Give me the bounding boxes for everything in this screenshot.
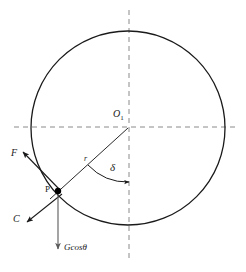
angle-delta-arc [88,165,129,182]
force-c-arrow [27,194,62,222]
label-center-o1: O1 [113,109,124,122]
label-force-f: F [11,148,17,158]
label-weight-theta: θ [83,242,87,252]
label-weight-gcos-theta: Gcosθ [64,243,87,252]
label-radius-r: r [84,155,87,163]
label-force-c: C [13,214,20,224]
point-p-marker [55,188,61,194]
label-angle-delta: δ [110,162,115,173]
radius-line-op [50,128,128,199]
figure-canvas: O1 P r δ F C Gcosθ [0,0,246,272]
label-point-p: P [45,185,50,194]
label-weight-prefix: Gcos [64,242,83,252]
label-center-subscript: 1 [120,114,124,122]
force-diagram-svg [0,0,246,272]
force-f-arrow [23,152,60,190]
